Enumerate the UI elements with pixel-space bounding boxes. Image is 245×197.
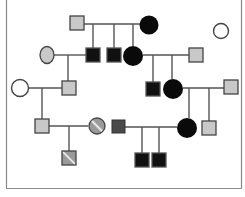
male-affected-square (107, 48, 121, 62)
male-gray-square (70, 16, 84, 30)
male-gray-square (62, 81, 76, 95)
male-affected-square (86, 48, 100, 62)
male-affected-square (146, 82, 160, 96)
male-gray-square (202, 121, 216, 135)
male-darkgray-square (112, 120, 125, 133)
male-affected-square (152, 153, 166, 167)
pedigree-svg (0, 0, 245, 197)
male-gray-square (35, 119, 49, 133)
female-gray-oval (40, 47, 54, 64)
female-affected-circle (177, 118, 197, 138)
male-gray-square (224, 80, 238, 94)
male-hatched-square (62, 151, 76, 165)
female-affected-circle (123, 46, 143, 66)
pedigree-chart (0, 0, 245, 197)
female-affected-circle (140, 16, 159, 35)
male-gray-square (189, 48, 203, 62)
male-affected-square (135, 153, 149, 167)
female-hatched-circle (89, 118, 105, 134)
female-unaffected-circle (214, 24, 229, 39)
female-unaffected-circle (12, 80, 29, 97)
female-affected-circle (163, 79, 183, 99)
